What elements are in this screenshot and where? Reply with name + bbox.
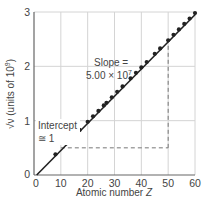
data-point: [104, 101, 108, 105]
data-point: [188, 16, 192, 20]
data-point: [110, 95, 114, 99]
intercept-label-line2: ≅ 1: [38, 133, 55, 144]
data-point: [158, 46, 162, 50]
data-point: [120, 84, 124, 88]
data-point: [96, 109, 100, 113]
data-point: [91, 114, 95, 118]
y-axis-units: (units of 10: [5, 66, 16, 119]
y-axis-close: ): [5, 59, 16, 62]
y-axis-label: √ν (units of 109): [4, 59, 16, 129]
slope-value: 5.00 × 10: [86, 70, 128, 81]
x-tick-label: 10: [55, 177, 67, 189]
data-point: [193, 11, 197, 15]
x-axis-label: Atomic number Z: [76, 187, 153, 198]
data-point: [145, 60, 149, 64]
y-tick-label: 0: [24, 168, 30, 180]
moseley-plot: 0102030405060 0123 Slope = 5.00 × 107 In…: [0, 0, 206, 206]
intercept-label-line1: Intercept: [38, 120, 77, 131]
x-axis-label-text: Atomic number: [76, 187, 146, 198]
y-tick-label: 3: [24, 6, 30, 18]
y-axis-root-symbol: √ν: [5, 119, 16, 130]
data-point: [129, 76, 133, 80]
y-tick-label: 2: [24, 60, 30, 72]
slope-exponent: 7: [128, 69, 132, 76]
data-point: [153, 52, 157, 56]
x-tick-label: 0: [33, 177, 39, 189]
x-tick-label: 50: [162, 177, 174, 189]
data-point: [115, 90, 119, 94]
slope-label-line2: 5.00 × 107: [86, 69, 132, 81]
data-point: [177, 27, 181, 31]
data-point: [182, 22, 186, 26]
data-point: [86, 120, 90, 124]
data-point: [134, 71, 138, 75]
y-tick-labels: 0123: [24, 6, 30, 180]
grid-lines: [34, 12, 195, 175]
y-tick-label: 1: [24, 115, 30, 127]
x-axis-variable: Z: [145, 187, 153, 198]
slope-label-line1: Slope =: [94, 57, 128, 68]
data-point: [166, 38, 170, 42]
x-tick-label: 60: [189, 177, 201, 189]
data-point: [171, 33, 175, 37]
data-point: [139, 65, 143, 69]
data-point: [53, 152, 57, 156]
